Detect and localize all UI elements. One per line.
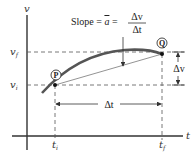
svg-text:P: P — [54, 71, 59, 80]
vi-label: vi — [10, 79, 18, 91]
point-p-label: P — [51, 70, 61, 80]
slope-numerator: Δv — [131, 11, 142, 22]
tf-label: tf — [159, 139, 167, 152]
slope-denominator: Δt — [132, 24, 141, 35]
point-q-dot — [160, 52, 164, 56]
svg-text:Q: Q — [159, 39, 165, 48]
t-axis-label: t — [186, 130, 191, 141]
slope-label: Slope = a = — [71, 16, 118, 27]
delta-t-label: Δt — [104, 99, 113, 110]
delta-v-label: Δv — [173, 63, 184, 74]
velocity-time-diagram: P Q Slope = a = Δv Δt v t vf vi ti tf Δt… — [0, 0, 195, 160]
vf-label: vf — [10, 46, 20, 59]
v-axis-label: v — [24, 3, 30, 14]
ti-label: ti — [52, 139, 58, 151]
point-p-dot — [53, 83, 57, 87]
point-q-label: Q — [157, 38, 167, 48]
